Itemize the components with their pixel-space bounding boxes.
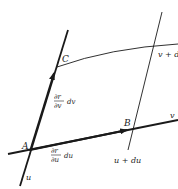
point-a-label: A [21, 141, 29, 151]
dr-dv-label: ∂r ∂v dv [54, 93, 75, 110]
dr-du-denominator: ∂u [51, 156, 60, 164]
u-plus-du-label: u + du [114, 156, 141, 165]
dr-du-numerator: ∂r [51, 147, 59, 155]
point-b-label: B [123, 118, 131, 128]
dr-dv-denominator: ∂v [54, 102, 62, 110]
dr-dv-suffix: dv [67, 98, 75, 106]
v-plus-dv-label: v + d [158, 50, 178, 59]
dr-du-label: ∂r ∂u du [51, 147, 73, 164]
point-c-label: C [62, 54, 69, 64]
v-curve-label: v [170, 111, 175, 120]
surface-patch-diagram: C A B v u v + d u + du ∂r ∂v dv ∂r ∂u du [0, 0, 178, 189]
dr-dv-vector-arrow [30, 73, 54, 151]
dr-du-vector-arrow [30, 130, 127, 150]
dr-dv-numerator: ∂r [54, 93, 62, 101]
dr-du-suffix: du [64, 152, 73, 160]
u-curve-label: u [26, 173, 31, 182]
